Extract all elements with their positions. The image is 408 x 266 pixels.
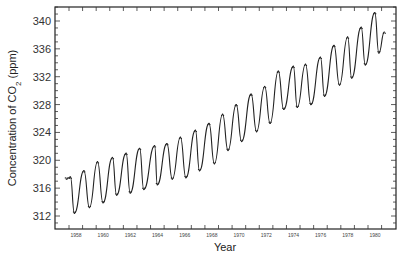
data-point xyxy=(378,52,379,53)
data-point xyxy=(309,103,310,104)
data-point xyxy=(379,51,380,52)
data-point xyxy=(213,162,214,163)
data-point xyxy=(84,171,85,172)
data-point xyxy=(142,188,143,189)
data-point xyxy=(324,96,325,97)
data-point xyxy=(373,13,374,14)
data-point xyxy=(115,193,116,194)
data-point xyxy=(215,162,216,163)
data-point xyxy=(129,191,130,192)
x-tick-label: 1970 xyxy=(234,232,245,238)
data-point xyxy=(98,162,99,163)
data-point xyxy=(250,93,251,94)
data-point xyxy=(112,157,113,158)
data-point xyxy=(283,109,284,110)
data-point xyxy=(101,201,102,202)
data-point xyxy=(153,146,154,147)
y-tick-label: 312 xyxy=(33,210,51,222)
data-point xyxy=(157,184,158,185)
data-point xyxy=(200,169,201,170)
data-point xyxy=(196,131,197,132)
data-point xyxy=(116,194,117,195)
data-point xyxy=(366,63,367,64)
data-point xyxy=(69,178,70,179)
data-point xyxy=(264,86,265,87)
x-tick-label: 1980 xyxy=(369,232,380,238)
x-tick-label: 1966 xyxy=(179,232,190,238)
data-point xyxy=(181,138,182,139)
data-point xyxy=(66,178,67,179)
data-point xyxy=(325,94,326,95)
data-point xyxy=(310,104,311,105)
data-point xyxy=(311,103,312,104)
data-point xyxy=(167,144,168,145)
data-point xyxy=(223,115,224,116)
data-point xyxy=(75,211,76,212)
y-axis-label: Concentration of CO2 (ppm) xyxy=(6,50,23,187)
data-point xyxy=(332,46,333,47)
y-tick-label: 316 xyxy=(33,182,51,194)
data-point xyxy=(82,171,83,172)
data-point xyxy=(199,170,200,171)
data-point xyxy=(255,130,256,131)
x-tick-label: 1964 xyxy=(152,232,163,238)
x-tick-label: 1960 xyxy=(98,232,109,238)
x-tick-label: 1958 xyxy=(70,232,81,238)
y-tick-label: 320 xyxy=(33,154,51,166)
data-point xyxy=(364,63,365,64)
data-point xyxy=(333,45,334,46)
data-point xyxy=(305,63,306,64)
data-point xyxy=(96,162,97,163)
data-point xyxy=(338,83,339,84)
x-tick-label: 1976 xyxy=(315,232,326,238)
data-point xyxy=(70,176,71,177)
x-tick-label: 1968 xyxy=(206,232,217,238)
data-point xyxy=(111,158,112,159)
data-point xyxy=(65,177,66,178)
y-axis-label-main: Concentration of CO xyxy=(6,86,18,187)
data-point xyxy=(125,153,126,154)
data-point xyxy=(360,28,361,29)
data-point xyxy=(263,87,264,88)
data-point xyxy=(250,95,251,96)
data-point xyxy=(140,149,141,150)
data-point xyxy=(184,176,185,177)
data-point xyxy=(172,178,173,179)
data-point xyxy=(351,77,352,78)
data-point xyxy=(130,192,131,193)
data-point xyxy=(138,149,139,150)
data-point xyxy=(347,36,348,37)
y-tick-label: 324 xyxy=(33,126,51,138)
data-point xyxy=(214,163,215,164)
data-point xyxy=(293,67,294,68)
data-point xyxy=(208,123,209,124)
data-point xyxy=(71,178,72,179)
x-tick-label: 1974 xyxy=(288,232,299,238)
data-point xyxy=(346,38,347,39)
data-point xyxy=(339,84,340,85)
data-point xyxy=(74,213,75,214)
co2-line xyxy=(66,13,384,214)
data-point xyxy=(278,70,279,71)
data-series xyxy=(65,12,386,214)
data-point xyxy=(97,161,98,162)
co2-chart: 312316320324328332336340 195819601962196… xyxy=(0,0,408,266)
data-point xyxy=(323,94,324,95)
data-point xyxy=(155,146,156,147)
data-point xyxy=(242,140,243,141)
data-point xyxy=(284,108,285,109)
x-axis: 1958196019621964196619681970197219741976… xyxy=(69,7,382,238)
data-point xyxy=(195,130,196,131)
data-point xyxy=(236,104,237,105)
data-point xyxy=(236,105,237,106)
data-point xyxy=(361,28,362,29)
data-point xyxy=(154,145,155,146)
data-point xyxy=(130,191,131,192)
data-point xyxy=(277,72,278,73)
data-point xyxy=(297,107,298,108)
data-point xyxy=(194,131,195,132)
data-point xyxy=(304,65,305,66)
data-point xyxy=(186,176,187,177)
data-point xyxy=(171,177,172,178)
data-point xyxy=(185,177,186,178)
